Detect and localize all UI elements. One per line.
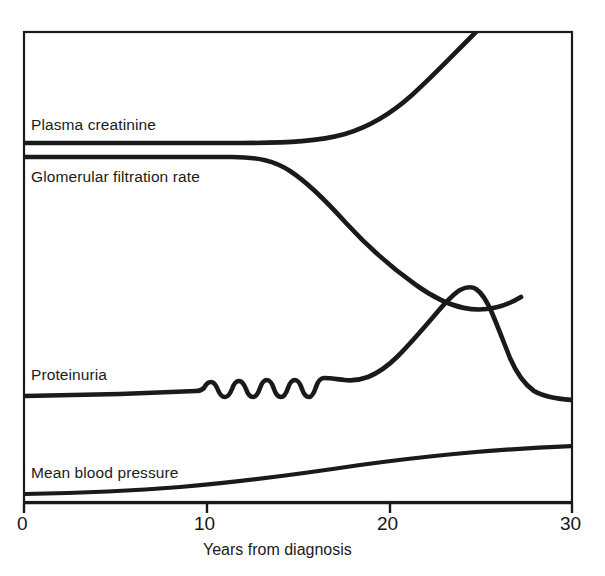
curve-label-mean-blood-pressure: Mean blood pressure	[31, 465, 179, 481]
x-tick-label-10: 10	[194, 514, 215, 533]
curve-label-plasma-creatinine: Plasma creatinine	[31, 117, 156, 133]
x-axis-title: Years from diagnosis	[203, 542, 352, 558]
x-tick-label-30: 30	[560, 514, 581, 533]
curve-label-glomerular-filtration-rate: Glomerular filtration rate	[31, 169, 200, 185]
x-tick-label-0: 0	[17, 514, 28, 533]
chart-canvas	[0, 0, 605, 576]
x-tick-label-20: 20	[377, 514, 398, 533]
plot-frame	[24, 32, 572, 502]
chart-figure: Plasma creatinine Glomerular filtration …	[0, 0, 605, 576]
curve-label-proteinuria: Proteinuria	[31, 367, 107, 383]
